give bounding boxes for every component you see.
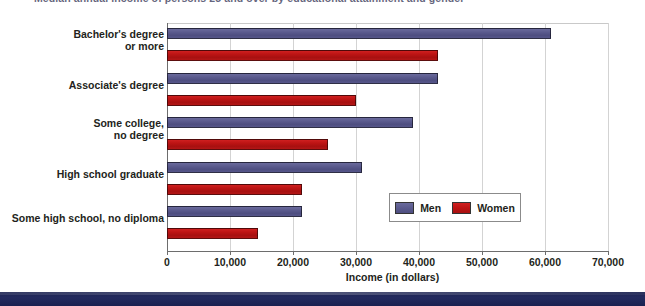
bar-women-4 (167, 228, 258, 239)
plot-top-border (167, 23, 608, 24)
legend-label-men: Men (420, 202, 441, 214)
x-axis-line (167, 251, 609, 252)
chart-title: Median annual income of persons 25 and o… (34, 0, 464, 4)
x-axis-tick-label: 20,000 (277, 256, 309, 268)
category-label-line: or more (73, 40, 164, 52)
bar-women-0 (167, 50, 438, 61)
x-axis-tick (419, 251, 420, 255)
bar-men-4 (167, 206, 302, 217)
x-axis-tick (293, 251, 294, 255)
x-axis-tick-label: 50,000 (466, 256, 498, 268)
bar-women-3 (167, 184, 302, 195)
x-axis-tick (545, 251, 546, 255)
bar-men-3 (167, 162, 362, 173)
x-axis-title: Income (in dollars) (0, 271, 645, 283)
legend-item-women: Women (452, 202, 515, 214)
bottom-decorative-band (0, 292, 645, 306)
category-label-line: Associate's degree (69, 79, 164, 91)
bar-women-1 (167, 95, 356, 106)
legend-item-men: Men (395, 202, 441, 214)
x-axis-tick (230, 251, 231, 255)
legend-label-women: Women (477, 202, 515, 214)
legend-swatch-women-icon (452, 202, 471, 214)
category-label-line: Bachelor's degree (73, 28, 164, 40)
bar-women-2 (167, 139, 328, 150)
x-axis-tick-label: 10,000 (214, 256, 246, 268)
x-axis-tick-label: 60,000 (529, 256, 561, 268)
x-axis-tick-label: 70,000 (592, 256, 624, 268)
category-label: Associate's degree (69, 79, 164, 91)
category-label: Some high school, no diploma (12, 212, 164, 224)
bar-men-0 (167, 28, 551, 39)
chart-legend: Men Women (389, 193, 521, 222)
category-label-line: High school graduate (57, 168, 164, 180)
x-axis-tick-label: 40,000 (403, 256, 435, 268)
x-axis-tick (608, 251, 609, 255)
category-label-line: Some high school, no diploma (12, 212, 164, 224)
x-axis-tick-label: 0 (164, 256, 170, 268)
category-label: High school graduate (57, 168, 164, 180)
x-axis-tick (167, 251, 168, 255)
x-axis-tick (356, 251, 357, 255)
category-label: Some college,no degree (93, 117, 164, 141)
bar-men-2 (167, 117, 413, 128)
bar-men-1 (167, 73, 438, 84)
x-axis-tick-label: 30,000 (340, 256, 372, 268)
legend-swatch-men-icon (395, 202, 414, 214)
category-label: Bachelor's degreeor more (73, 28, 164, 52)
chart-figure: Median annual income of persons 25 and o… (0, 0, 645, 306)
gridline (545, 23, 546, 251)
category-label-line: Some college, (93, 117, 164, 129)
category-label-line: no degree (93, 129, 164, 141)
band-sheen (0, 292, 645, 295)
x-axis-tick (482, 251, 483, 255)
gridline (608, 23, 609, 251)
chart-title-strip: Median annual income of persons 25 and o… (0, 0, 645, 7)
